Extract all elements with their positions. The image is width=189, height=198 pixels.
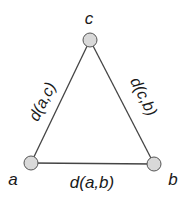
node-label-c: c xyxy=(85,9,94,28)
edge-label-a-c: d(a,c) xyxy=(25,79,59,123)
edge-a-b xyxy=(31,163,154,164)
edge-label-a-b: d(a,b) xyxy=(70,173,114,192)
node-b xyxy=(147,157,161,171)
node-label-a: a xyxy=(8,170,17,189)
triangle-diagram: c a b d(a,c) d(c,b) d(a,b) xyxy=(0,0,189,198)
edge-label-c-b: d(c,b) xyxy=(127,74,161,118)
node-label-b: b xyxy=(168,170,177,189)
node-c xyxy=(83,33,97,47)
node-a xyxy=(24,156,38,170)
